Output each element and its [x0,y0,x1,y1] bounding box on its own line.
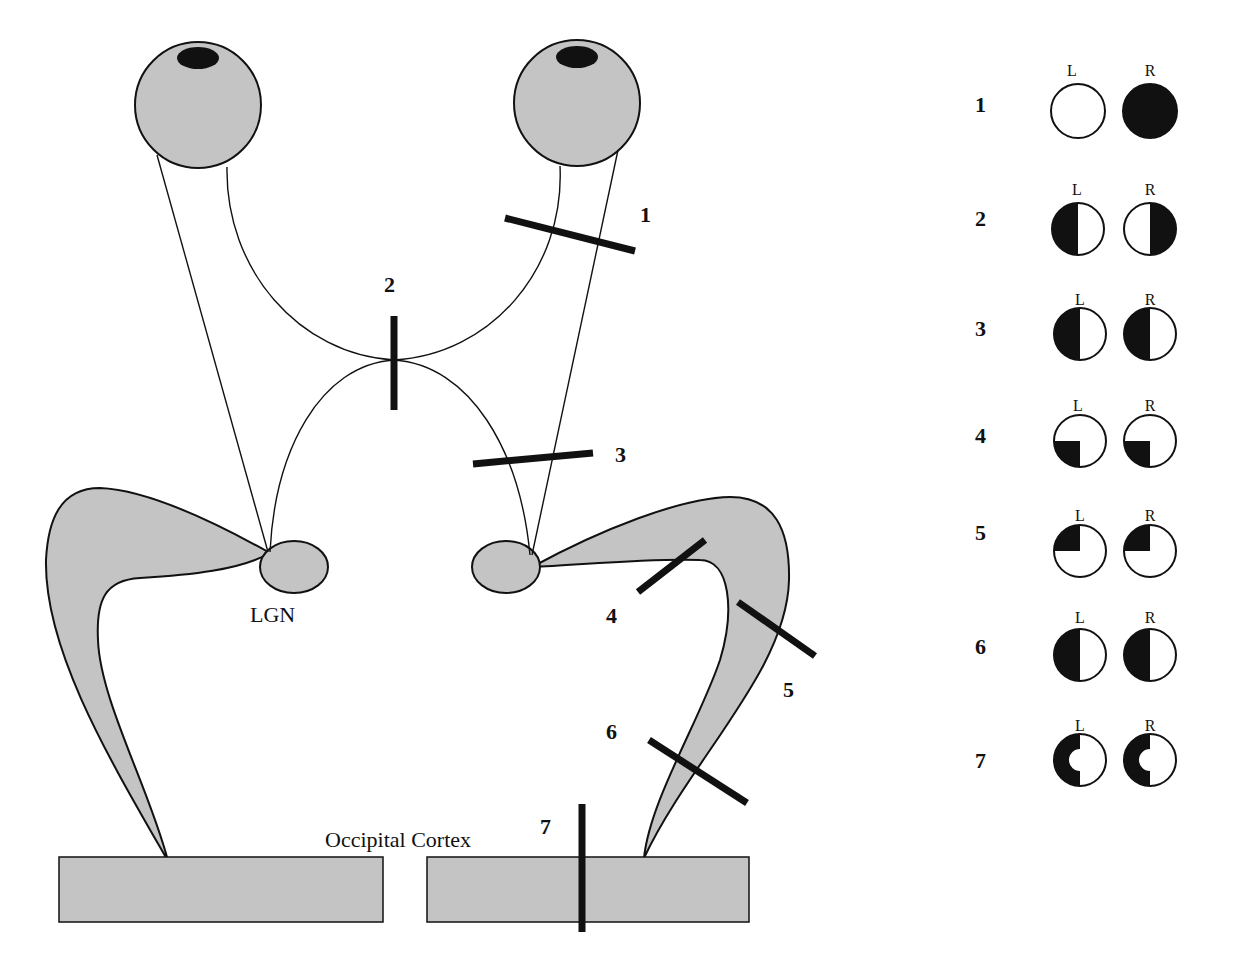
lgn-label: LGN [250,602,295,627]
left-nasal-fiber [227,167,530,555]
left-pupil [177,47,219,69]
legend-row-label: 5 [975,520,986,545]
legend-row-3: 3 L R [975,291,1176,360]
left-eye-label: L [1072,181,1082,198]
field-left-macular-sparing-loss [1054,734,1106,786]
legend-row-label: 4 [975,423,986,448]
legend-row-7: 7 L R [975,717,1176,786]
legend-row-4: 4 L R [975,397,1176,467]
optic-fibers [157,150,618,555]
left-eye [135,42,261,168]
left-eye-label: L [1075,609,1085,626]
right-eye-label: R [1145,717,1156,734]
legend-row-1: 1 L R [975,62,1177,138]
field-left-intact [1051,84,1105,138]
left-optic-radiation [46,488,270,861]
lesion-2-label: 2 [384,272,395,297]
legend-row-5: 5 L R [975,507,1176,577]
visual-field-legend: 1 L R 2 L R 3 L R [975,62,1177,786]
visual-pathway-diagram: 1 2 3 4 5 6 7 LGN Occipital Cortex 1 L R… [0,0,1234,974]
lesion-1-label: 1 [640,202,651,227]
field-right-left-half-loss [1124,308,1176,360]
right-eye-label: R [1145,507,1156,524]
lesion-4-label: 4 [606,603,617,628]
lesion-5-label: 5 [783,677,794,702]
right-eye-label: R [1145,291,1156,308]
right-eye-label: R [1145,62,1156,79]
lesion-3-label: 3 [615,442,626,467]
occipital-cortex-label: Occipital Cortex [325,827,471,852]
right-pupil [556,46,598,68]
right-eye [514,40,640,166]
legend-row-label: 6 [975,634,986,659]
right-optic-radiation [532,497,789,858]
left-eye-label: L [1075,717,1085,734]
lesion-6-label: 6 [606,719,617,744]
field-left-left-half-loss [1052,203,1104,255]
right-eye-label: R [1145,397,1156,414]
field-right-right-half-loss [1124,203,1176,255]
legend-row-label: 2 [975,206,986,231]
field-right-left-half-loss [1124,629,1176,681]
field-right-lower-left-quadrant-loss [1124,415,1176,467]
legend-row-label: 7 [975,748,986,773]
field-left-left-half-loss [1054,629,1106,681]
right-occipital-cortex [427,857,749,922]
left-temporal-fiber [157,155,268,552]
field-left-left-half-loss [1054,308,1106,360]
right-temporal-fiber [532,150,618,555]
lesion-3-bar [473,453,593,464]
field-left-lower-left-quadrant-loss [1054,415,1106,467]
left-eye-label: L [1075,507,1085,524]
lesion-1-bar [505,218,635,251]
legend-row-2: 2 L R [975,181,1176,255]
field-left-upper-left-quadrant-loss [1054,525,1106,577]
lesion-7-label: 7 [540,814,551,839]
field-right-macular-sparing-loss [1124,734,1176,786]
legend-row-6: 6 L R [975,609,1176,681]
legend-row-label: 3 [975,316,986,341]
left-occipital-cortex [59,857,383,922]
legend-row-label: 1 [975,92,986,117]
field-right-full-loss [1123,84,1177,138]
right-eye-label: R [1145,181,1156,198]
field-right-upper-left-quadrant-loss [1124,525,1176,577]
left-eye-label: L [1073,397,1083,414]
right-eye-label: R [1145,609,1156,626]
left-eye-label: L [1067,62,1077,79]
left-eye-label: L [1075,291,1085,308]
